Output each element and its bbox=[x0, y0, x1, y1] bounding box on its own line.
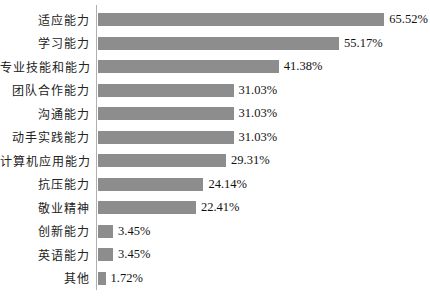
value-label: 1.72% bbox=[111, 271, 143, 286]
bar-row: 计算机应用能力29.31% bbox=[0, 149, 430, 173]
value-label: 65.52% bbox=[389, 12, 428, 27]
category-label: 其他 bbox=[0, 269, 98, 287]
value-label: 24.14% bbox=[208, 177, 247, 192]
bar-row: 适应能力65.52% bbox=[0, 8, 430, 32]
bar-row: 创新能力3.45% bbox=[0, 220, 430, 244]
value-label: 31.03% bbox=[239, 83, 278, 98]
category-label: 敬业精神 bbox=[0, 199, 98, 217]
bar bbox=[98, 107, 234, 120]
category-label: 适应能力 bbox=[0, 11, 98, 29]
value-label: 29.31% bbox=[231, 153, 270, 168]
category-label: 动手实践能力 bbox=[0, 128, 98, 146]
bar bbox=[98, 201, 196, 214]
value-label: 3.45% bbox=[118, 224, 150, 239]
bar bbox=[98, 84, 234, 97]
category-label: 沟通能力 bbox=[0, 105, 98, 123]
bar bbox=[98, 60, 279, 73]
category-label: 英语能力 bbox=[0, 246, 98, 264]
bar-rows: 适应能力65.52%学习能力55.17%专业技能和能力41.38%团队合作能力3… bbox=[0, 8, 430, 290]
value-label: 31.03% bbox=[239, 106, 278, 121]
bar-row: 沟通能力31.03% bbox=[0, 102, 430, 126]
bar-row: 团队合作能力31.03% bbox=[0, 79, 430, 103]
bar bbox=[98, 13, 384, 26]
bar bbox=[98, 225, 113, 238]
bar bbox=[98, 131, 234, 144]
bar-row: 专业技能和能力41.38% bbox=[0, 55, 430, 79]
category-label: 学习能力 bbox=[0, 34, 98, 52]
category-label: 团队合作能力 bbox=[0, 81, 98, 99]
horizontal-bar-chart: 适应能力65.52%学习能力55.17%专业技能和能力41.38%团队合作能力3… bbox=[0, 0, 430, 298]
bar bbox=[98, 248, 113, 261]
value-label: 55.17% bbox=[344, 36, 383, 51]
value-label: 3.45% bbox=[118, 247, 150, 262]
bar-row: 动手实践能力31.03% bbox=[0, 126, 430, 150]
bar-row: 英语能力3.45% bbox=[0, 243, 430, 267]
category-label: 专业技能和能力 bbox=[0, 58, 98, 76]
bar bbox=[98, 178, 203, 191]
category-label: 计算机应用能力 bbox=[0, 152, 98, 170]
value-label: 41.38% bbox=[284, 59, 323, 74]
category-label: 抗压能力 bbox=[0, 175, 98, 193]
bar-row: 抗压能力24.14% bbox=[0, 173, 430, 197]
bar-row: 敬业精神22.41% bbox=[0, 196, 430, 220]
bar bbox=[98, 37, 339, 50]
bar-row: 其他1.72% bbox=[0, 267, 430, 291]
value-label: 22.41% bbox=[201, 200, 240, 215]
category-label: 创新能力 bbox=[0, 222, 98, 240]
bar-row: 学习能力55.17% bbox=[0, 32, 430, 56]
value-label: 31.03% bbox=[239, 130, 278, 145]
bar bbox=[98, 154, 226, 167]
bar bbox=[98, 272, 106, 285]
